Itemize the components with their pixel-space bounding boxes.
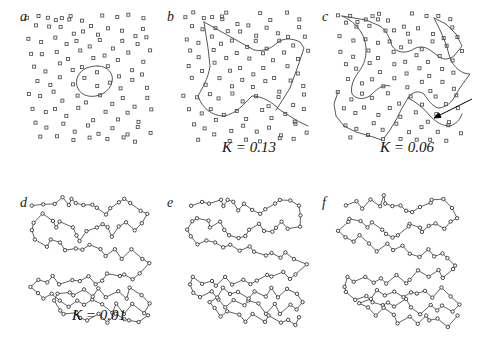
network-node [374,314,377,317]
scatter-point [298,26,301,29]
scatter-point [267,105,270,108]
network-node [105,272,108,275]
network-node [146,212,149,215]
network-node [140,222,143,225]
scatter-point [184,16,187,19]
network-node [189,204,192,207]
scatter-point [255,34,258,37]
network-node [279,256,282,259]
network-node [248,245,251,248]
network-node [427,319,430,322]
scatter-point [27,37,30,40]
scatter-point [187,108,190,111]
network-node [46,281,49,284]
network-node [282,270,285,273]
scatter-point [371,78,374,81]
network-node [109,207,112,210]
scatter-point [87,124,90,127]
scatter-point [60,17,63,20]
network-node [382,306,385,309]
network-node [128,286,131,289]
network-node [278,312,281,315]
scatter-point [420,80,423,83]
network-node [185,228,188,231]
scatter-point [392,50,395,53]
network-node [88,243,91,246]
network-node [456,314,459,317]
scatter-point [149,49,152,52]
scatter-point [261,108,264,111]
network-node [247,297,250,300]
scatter-point [236,23,239,26]
network-node [297,316,300,319]
scatter-point [97,33,100,36]
scatter-point [97,132,100,135]
network-node [106,225,109,228]
network-node [353,298,356,301]
scatter-point [268,126,271,129]
network-node [420,230,423,233]
scatter-point [202,17,205,20]
scatter-point [150,108,153,111]
network-node [82,303,85,306]
network-node [37,278,40,281]
network-node [271,230,274,233]
network-node [270,286,273,289]
scatter-point [121,39,124,42]
network-node [55,226,58,229]
network-node [393,290,396,293]
network-node [372,281,375,284]
scatter-point [307,49,310,52]
scatter-point [406,32,409,35]
network-node [72,294,75,297]
scatter-point [55,50,58,53]
scatter-point [241,100,244,103]
network-node [71,278,74,281]
network-node [131,278,134,281]
network-node [399,204,402,207]
network-node [267,314,270,317]
scatter-point [116,118,119,121]
network-node [295,292,298,295]
network-node [59,309,62,312]
network-node [289,199,292,202]
scatter-point [441,67,444,70]
scatter-point [35,24,38,27]
scatter-point [410,12,413,15]
scatter-point [277,96,280,99]
scatter-point [241,78,244,81]
network-node [344,236,347,239]
network-node [401,244,404,247]
network-node [416,322,419,325]
scatter-point [339,50,342,53]
panel-a [12,4,160,144]
network-node [229,243,232,246]
network-node [391,248,394,251]
panel-f [322,188,472,330]
scatter-point [136,126,139,129]
network-node [425,314,428,317]
network-node [343,285,346,288]
network-node [104,296,107,299]
scatter-point [104,110,107,113]
network-node [286,227,289,230]
network-node [292,257,295,260]
scatter-point [239,30,242,33]
scatter-point [212,48,215,51]
network-node [427,275,430,278]
scatter-point [428,74,431,77]
scatter-point [54,19,57,22]
network-node [251,312,254,315]
network-node [236,209,239,212]
scatter-point [386,92,389,95]
scatter-point [92,56,95,59]
scatter-point [376,41,379,44]
scatter-point [405,72,408,75]
network-node [208,300,211,303]
scatter-point [367,49,370,52]
scatter-point [425,14,428,17]
network-node [386,242,389,245]
scatter-point [406,86,409,89]
network-node [383,294,386,297]
scatter-point [248,57,251,60]
